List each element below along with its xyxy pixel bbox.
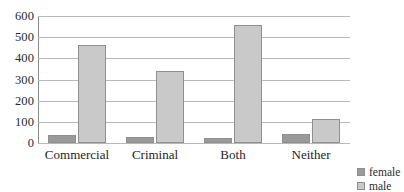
bar-commercial-male (78, 45, 106, 143)
legend-item-female[interactable]: female (357, 165, 404, 178)
y-axis-tick-label: 400 (0, 52, 34, 64)
bar-criminal-male (156, 71, 184, 143)
bar-neither-male (312, 119, 340, 143)
legend-label-male: male (369, 180, 391, 192)
legend-swatch-icon-female (357, 168, 365, 176)
x-axis-label-neither: Neither (272, 146, 350, 164)
bar-neither-female (282, 134, 310, 143)
bar-criminal-female (126, 137, 154, 143)
plot-area (38, 16, 350, 143)
gridline (38, 37, 350, 38)
bar-chart: 0100200300400500600 CommercialCriminalBo… (0, 0, 404, 192)
legend-label-female: female (369, 166, 400, 178)
bar-both-female (204, 138, 232, 143)
bar-both-male (234, 25, 262, 143)
y-axis-tick-label: 500 (0, 31, 34, 43)
x-axis-label-both: Both (194, 146, 272, 164)
legend-item-male[interactable]: male (357, 179, 404, 192)
x-axis-category-labels: CommercialCriminalBothNeither (38, 146, 350, 168)
y-axis-tick-label: 200 (0, 95, 34, 107)
y-axis-tick-label: 300 (0, 74, 34, 86)
legend-swatch-icon-male (357, 182, 365, 190)
chart-legend: femalemale (357, 165, 404, 192)
gridline (38, 143, 350, 144)
y-axis-tick-labels: 0100200300400500600 (0, 0, 34, 192)
y-axis-tick-label: 100 (0, 116, 34, 128)
gridline (38, 16, 350, 17)
y-axis-tick-label: 0 (0, 137, 34, 149)
x-axis-label-criminal: Criminal (116, 146, 194, 164)
bar-commercial-female (48, 135, 76, 143)
x-axis-label-commercial: Commercial (38, 146, 116, 164)
y-axis-tick-label: 600 (0, 10, 34, 22)
